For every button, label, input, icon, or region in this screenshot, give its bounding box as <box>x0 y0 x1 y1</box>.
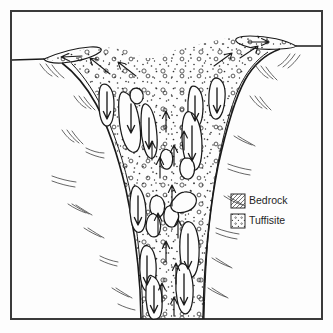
block <box>130 88 143 104</box>
legend-swatch-bedrock <box>231 194 245 208</box>
tuffisite-vent-diagram: Bedrock Tuffisite <box>0 0 333 333</box>
legend-item-tuffisite: Tuffisite <box>231 214 285 228</box>
legend-label-tuffisite: Tuffisite <box>249 214 285 226</box>
legend-item-bedrock: Bedrock <box>231 194 288 208</box>
figure-root: Bedrock Tuffisite <box>0 0 333 333</box>
ground-line-left <box>12 59 44 60</box>
legend-label-bedrock: Bedrock <box>249 194 288 206</box>
legend-swatch-tuffisite <box>231 214 245 228</box>
